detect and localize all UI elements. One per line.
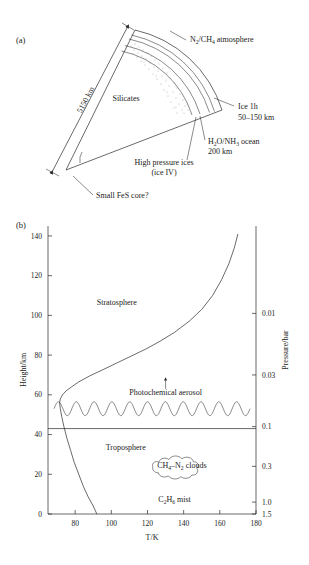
atmosphere-leader bbox=[170, 31, 186, 40]
ice-thickness-label: 50–150 km bbox=[238, 113, 275, 122]
ocean-thickness-label: 200 km bbox=[208, 147, 233, 156]
y2-tick-label: 1.5 bbox=[262, 510, 272, 519]
y2-tick-label: 0.01 bbox=[262, 309, 275, 318]
photochemical-aerosol-label: Photochemical aerosol bbox=[129, 388, 202, 397]
stratosphere-label: Stratosphere bbox=[97, 298, 137, 307]
diameter-label: 5150 km bbox=[75, 85, 97, 115]
y-tick-label: 0 bbox=[38, 510, 42, 519]
aerosol-haze-layer bbox=[54, 402, 250, 416]
y-axis-label: Height/km bbox=[19, 352, 28, 387]
y2-tick-label: 0.1 bbox=[262, 422, 272, 431]
core-angle-arc bbox=[80, 152, 82, 163]
mist-label: C2H6 mist bbox=[158, 495, 191, 505]
diameter-cap-top bbox=[122, 23, 134, 30]
clouds-label: CH4–N2 clouds bbox=[157, 461, 206, 471]
y-tick-label: 40 bbox=[35, 430, 43, 439]
x-tick-label: 180 bbox=[250, 519, 262, 528]
x-axis-label: T/K bbox=[146, 533, 159, 542]
y2-axis-label: Pressure/bar bbox=[281, 330, 290, 370]
y-ticks-right: 0.010.030.10.31.01.5 bbox=[252, 309, 275, 519]
y2-tick-label: 1.0 bbox=[262, 498, 272, 507]
figure-svg: (a) bbox=[0, 0, 309, 565]
high-pressure-ices-label: High pressure ices bbox=[134, 158, 193, 167]
silicates-label: Silicates bbox=[112, 94, 139, 103]
x-tick-label: 120 bbox=[142, 519, 154, 528]
diameter-cap-bottom bbox=[46, 169, 59, 176]
x-tick-label: 80 bbox=[71, 519, 79, 528]
figure-caption bbox=[0, 543, 309, 565]
core-leader bbox=[73, 176, 93, 195]
x-tick-label: 100 bbox=[106, 519, 118, 528]
x-ticks: 80100120140160180 bbox=[71, 510, 261, 528]
y-tick-label: 140 bbox=[31, 232, 43, 241]
ocean-outer-arc bbox=[129, 39, 210, 113]
y-tick-label: 80 bbox=[35, 351, 43, 360]
y-tick-label: 20 bbox=[35, 470, 43, 479]
y-tick-label: 120 bbox=[31, 271, 43, 280]
troposphere-label: Troposphere bbox=[106, 443, 147, 452]
ice-leader bbox=[214, 98, 234, 106]
y-tick-label: 100 bbox=[31, 311, 43, 320]
atmosphere-label: N2/CH4 atmosphere bbox=[190, 35, 254, 45]
y-tick-label: 60 bbox=[35, 390, 43, 399]
panel-a-tag: (a) bbox=[16, 35, 26, 45]
panel-a: (a) bbox=[16, 23, 275, 200]
y2-tick-label: 0.3 bbox=[262, 462, 272, 471]
ice-inner-arc bbox=[132, 35, 215, 112]
panel-b-tag: (b) bbox=[16, 220, 26, 230]
high-pressure-ices-sublabel: (ice IV) bbox=[151, 168, 176, 177]
ocean-inner-arc bbox=[125, 46, 200, 115]
y-ticks-left: 020406080100120140 bbox=[31, 232, 52, 519]
ocean-label: H2O/NH3 ocean bbox=[208, 137, 260, 147]
panel-b: (b) 020406080100120140 0.010.030.10.31.0… bbox=[16, 220, 290, 542]
y2-tick-label: 0.03 bbox=[262, 371, 275, 380]
x-tick-label: 140 bbox=[178, 519, 190, 528]
core-label: Small FeS core? bbox=[96, 191, 149, 200]
ice-label: Ice 1h bbox=[238, 102, 258, 111]
ocean-leader bbox=[200, 116, 205, 140]
figure-root: (a) bbox=[0, 0, 309, 565]
high-pressure-ices-leader bbox=[187, 117, 196, 160]
x-tick-label: 160 bbox=[214, 519, 226, 528]
temperature-profile-curve bbox=[60, 234, 238, 514]
